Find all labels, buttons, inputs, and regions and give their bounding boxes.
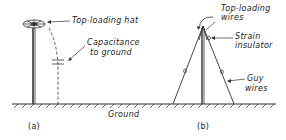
mast-a [33,28,35,104]
capacitance-label: Capacitance [87,38,140,47]
figure-b-label: (b) [197,122,209,131]
antenna-diagram: Top-loading hat Capacitance to ground Gr… [0,0,286,140]
top-loading-hat-label: Top-loading hat [72,16,138,25]
capacitance-label-2: to ground [90,48,132,57]
mast-b [202,28,204,104]
ground-label: Ground [108,110,139,119]
guy-wires-label-2: wires [245,84,268,93]
top-loading-hat-icon [23,20,45,28]
strain-insulator-icon [184,36,224,74]
strain-insulator-label-2: insulator [235,41,273,50]
top-loading-wires-label: Top-loading [221,4,271,13]
hat-pointer [48,21,70,22]
ground-hatching [14,104,274,108]
guy-wires-label: Guy [247,74,264,83]
capacitance-pointer [69,46,85,60]
figure-a-label: (a) [28,122,40,131]
capacitance-curve [49,28,58,104]
top-loading-arrow [199,17,213,29]
top-loading-wires-label-2: wires [221,13,244,22]
strain-insulator-label: Strain [235,32,261,41]
